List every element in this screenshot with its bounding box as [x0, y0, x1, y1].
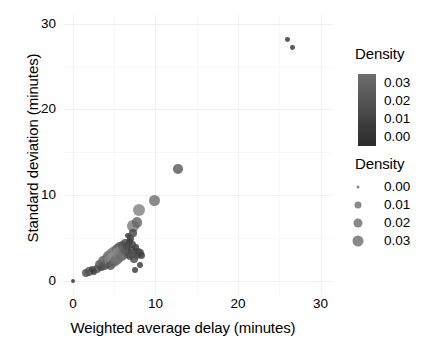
gridline-minor-horizontal — [63, 238, 333, 239]
x-axis-tick-label: 10 — [140, 297, 170, 311]
y-axis-tick-label: 20 — [30, 102, 56, 116]
colorbar-gradient — [358, 74, 376, 146]
size-legend-item: 0.00 — [344, 178, 435, 196]
size-legend-dot — [357, 186, 360, 189]
x-axis-title: Weighted average delay (minutes) — [33, 317, 333, 339]
legend-panel: Density 0.030.020.010.00 Density 0.000.0… — [344, 44, 435, 259]
gridline-minor-vertical — [197, 15, 198, 295]
size-legend-item: 0.02 — [344, 214, 435, 232]
scatter-point — [138, 252, 145, 259]
scatter-point — [149, 195, 160, 206]
gridline-horizontal — [63, 281, 333, 282]
plot-area — [63, 15, 333, 295]
size-legend-item: 0.03 — [344, 232, 435, 250]
scatter-point — [290, 45, 295, 50]
size-legend-label: 0.02 — [384, 215, 410, 231]
size-legend-dot — [354, 219, 363, 228]
gridline-vertical — [155, 15, 156, 295]
size-legend: 0.000.010.020.03 — [344, 178, 435, 262]
size-legend-label: 0.01 — [384, 197, 410, 213]
size-legend-dot — [353, 236, 364, 247]
gridline-vertical — [73, 15, 74, 295]
color-legend: 0.030.020.010.00 — [344, 68, 435, 154]
y-axis-tick-label: 0 — [30, 274, 56, 288]
colorbar-tick-label: 0.00 — [384, 130, 410, 144]
size-legend-label: 0.00 — [384, 179, 410, 195]
gridline-horizontal — [63, 24, 333, 25]
x-axis-tick-label: 20 — [223, 297, 253, 311]
gridline-minor-vertical — [279, 15, 280, 295]
scatter-point — [133, 204, 145, 216]
gridline-minor-horizontal — [63, 67, 333, 68]
y-axis-tick-label: 30 — [30, 17, 56, 31]
y-axis-tick-label: 10 — [30, 188, 56, 202]
scatter-point — [71, 279, 75, 283]
gridline-vertical — [238, 15, 239, 295]
size-legend-dot — [355, 202, 362, 209]
gridline-vertical — [321, 15, 322, 295]
scatter-point — [137, 262, 143, 268]
size-legend-item: 0.01 — [344, 196, 435, 214]
scatter-point — [129, 229, 137, 237]
colorbar-tick-label: 0.02 — [384, 94, 410, 108]
size-legend-label: 0.03 — [384, 233, 410, 249]
color-legend-title: Density — [344, 44, 435, 63]
scatter-point — [173, 164, 182, 173]
scatter-point — [132, 267, 138, 273]
chart-figure: Standard deviation (minutes) 0102030 010… — [0, 0, 435, 351]
size-legend-title: Density — [344, 154, 435, 173]
colorbar-tick-label: 0.03 — [384, 76, 410, 90]
gridline-horizontal — [63, 109, 333, 110]
x-axis-tick-label: 30 — [306, 297, 336, 311]
gridline-horizontal — [63, 195, 333, 196]
scatter-point — [132, 217, 142, 227]
scatter-point — [285, 37, 290, 42]
gridline-minor-horizontal — [63, 152, 333, 153]
x-axis-tick-label: 0 — [58, 297, 88, 311]
x-axis-tick-labels: 0102030 — [0, 297, 435, 313]
colorbar-tick-label: 0.01 — [384, 112, 410, 126]
